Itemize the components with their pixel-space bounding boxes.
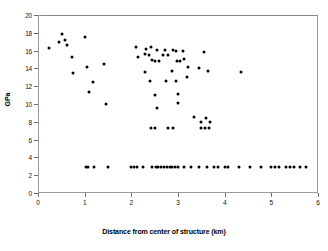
- data-point: [149, 79, 152, 82]
- y-axis-tick-label: 20: [8, 12, 32, 19]
- data-point: [198, 165, 201, 168]
- data-point: [162, 53, 165, 56]
- data-point: [200, 121, 203, 124]
- data-point: [149, 126, 152, 129]
- data-point: [204, 126, 207, 129]
- data-point: [64, 39, 67, 42]
- data-point: [208, 121, 211, 124]
- data-point: [186, 75, 189, 78]
- x-axis-tick-label: 6: [308, 199, 328, 206]
- data-point: [93, 165, 96, 168]
- y-axis-tick-label: 8: [8, 118, 32, 125]
- data-point: [166, 53, 169, 56]
- data-point: [61, 32, 64, 35]
- data-point: [58, 40, 61, 43]
- data-point: [153, 59, 156, 62]
- data-point: [202, 50, 205, 53]
- y-axis-tick-label: 16: [8, 47, 32, 54]
- x-axis-tick-label: 4: [215, 199, 235, 206]
- y-axis-tick-label: 0: [8, 190, 32, 197]
- data-point: [174, 50, 177, 53]
- data-point: [237, 165, 240, 168]
- data-point: [148, 53, 151, 56]
- x-axis-tick: [271, 193, 272, 197]
- data-point: [174, 80, 177, 83]
- data-point: [182, 57, 185, 60]
- x-axis-tick-label: 0: [28, 199, 48, 206]
- data-point: [158, 59, 161, 62]
- x-axis-tick: [85, 193, 86, 197]
- data-point: [182, 165, 185, 168]
- data-point: [292, 165, 295, 168]
- data-point: [166, 126, 169, 129]
- data-point: [135, 165, 138, 168]
- y-axis-tick-label: 10: [8, 101, 32, 108]
- data-point: [145, 47, 148, 50]
- x-axis-tick: [225, 193, 226, 197]
- data-point: [207, 126, 210, 129]
- data-point: [149, 45, 152, 48]
- x-axis-tick-label: 2: [121, 199, 141, 206]
- data-point: [48, 47, 51, 50]
- data-point: [299, 165, 302, 168]
- data-point: [277, 165, 280, 168]
- data-point: [240, 70, 243, 73]
- data-point: [207, 69, 210, 72]
- data-point: [177, 92, 180, 95]
- data-point: [104, 103, 107, 106]
- data-point: [165, 79, 168, 82]
- x-axis-title: Distance from center of structure (km): [0, 228, 328, 235]
- data-point: [181, 49, 184, 52]
- data-point: [198, 67, 201, 70]
- data-point: [270, 165, 273, 168]
- data-point: [190, 165, 193, 168]
- y-axis-tick-label: 12: [8, 83, 32, 90]
- x-axis-tick: [38, 193, 39, 197]
- data-point: [249, 165, 252, 168]
- data-point: [187, 66, 190, 69]
- data-point: [137, 56, 140, 59]
- data-point: [88, 90, 91, 93]
- y-axis-tick-label: 4: [8, 154, 32, 161]
- data-point: [223, 165, 226, 168]
- data-point: [289, 165, 292, 168]
- data-point: [193, 115, 196, 118]
- data-point: [179, 59, 182, 62]
- data-point: [171, 70, 174, 73]
- data-point: [163, 48, 166, 51]
- scatter-plot-area: [38, 15, 318, 193]
- data-point: [285, 165, 288, 168]
- data-point: [205, 117, 208, 120]
- data-point: [156, 48, 159, 51]
- data-point: [217, 165, 220, 168]
- y-axis-tick-label: 2: [8, 172, 32, 179]
- data-point: [213, 165, 216, 168]
- y-axis-title: GPa: [4, 80, 11, 120]
- data-point: [87, 165, 90, 168]
- data-point: [92, 80, 95, 83]
- data-point: [200, 126, 203, 129]
- data-point: [274, 165, 277, 168]
- data-point: [107, 165, 110, 168]
- x-axis-tick-label: 3: [168, 199, 188, 206]
- y-axis-tick-label: 6: [8, 136, 32, 143]
- y-axis-tick-label: 14: [8, 65, 32, 72]
- chart-page: 02468101214161820 0123456 GPa Distance f…: [0, 0, 328, 251]
- data-point: [153, 126, 156, 129]
- x-axis-tick-label: 5: [261, 199, 281, 206]
- data-point: [305, 165, 308, 168]
- x-axis-tick: [131, 193, 132, 197]
- data-point: [227, 165, 230, 168]
- data-point: [103, 63, 106, 66]
- data-point: [172, 126, 175, 129]
- data-point: [156, 107, 159, 110]
- data-point: [144, 70, 147, 73]
- data-point: [153, 94, 156, 97]
- data-point: [260, 165, 263, 168]
- data-point: [70, 56, 73, 59]
- data-point: [65, 44, 68, 47]
- data-point: [177, 102, 180, 105]
- data-point: [71, 72, 74, 75]
- data-point: [135, 46, 138, 49]
- data-point: [86, 66, 89, 69]
